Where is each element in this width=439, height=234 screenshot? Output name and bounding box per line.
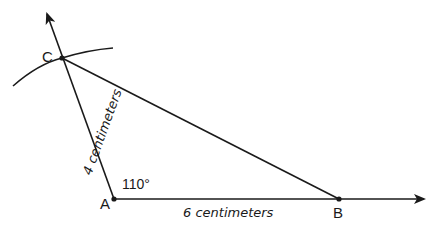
point-b-dot	[336, 196, 341, 201]
compass-arc	[13, 48, 113, 86]
side-ab-label: 6 centimeters	[183, 205, 274, 220]
point-b-label: B	[333, 204, 343, 221]
side-ac-label: 4 centimeters	[80, 87, 125, 177]
point-a-dot	[111, 196, 116, 201]
point-c-dot	[59, 55, 64, 60]
point-c-label: C	[42, 48, 53, 65]
point-a-label: A	[100, 195, 110, 212]
triangle-construction-diagram: A B C 110° 6 centimeters 4 centimeters	[0, 0, 439, 234]
angle-label: 110°	[122, 176, 150, 192]
